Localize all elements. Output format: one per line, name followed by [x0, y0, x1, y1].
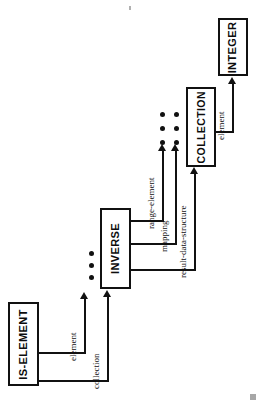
edge-range-element-segment-v — [162, 150, 164, 222]
edge-collection-arrowhead — [103, 290, 111, 297]
node-integer[interactable]: INTEGER — [218, 18, 248, 76]
ellipsis-dot — [160, 112, 165, 117]
node-collection[interactable]: COLLECTION — [186, 87, 216, 167]
edge-range-element-arrowhead — [158, 144, 166, 151]
node-is-element[interactable]: IS-ELEMENT — [8, 302, 39, 386]
edge-label-range-element: range-element — [147, 178, 156, 229]
edge-label-element-1: element — [69, 333, 78, 362]
node-is-element-label: IS-ELEMENT — [18, 309, 29, 380]
ellipsis-dot — [89, 263, 94, 268]
edge-collection-segment-v — [107, 296, 109, 382]
edge-element-1-segment-v — [84, 298, 86, 354]
edge-label-collection: collection — [92, 354, 101, 390]
edge-mapping-segment-v — [175, 150, 177, 245]
node-collection-label: COLLECTION — [196, 91, 207, 163]
edge-label-element-2: element — [217, 112, 226, 141]
edge-label-mapping: mapping — [160, 221, 169, 253]
ellipsis-dot — [89, 275, 94, 280]
edge-element-2-segment-v — [232, 84, 234, 133]
diagram-canvas: IS-ELEMENT INVERSE COLLECTION INTEGER el… — [0, 0, 258, 402]
edge-label-result-data-structure: result-data-structure — [179, 206, 188, 278]
edge-element-2-arrowhead — [228, 77, 236, 84]
edge-mapping-arrowhead — [171, 144, 179, 151]
ellipsis-dot — [89, 251, 94, 256]
node-inverse-label: INVERSE — [110, 223, 121, 274]
edge-result-data-structure-arrowhead — [190, 167, 198, 174]
scan-speck-top — [129, 6, 131, 10]
node-integer-label: INTEGER — [228, 21, 239, 73]
edge-result-data-structure-segment-v — [194, 174, 196, 271]
edge-element-1-segment-h — [39, 352, 85, 354]
ellipsis-dot — [160, 140, 165, 145]
edge-element-1-arrowhead — [80, 292, 88, 299]
ellipsis-dot — [174, 112, 179, 117]
scan-speck-corner — [250, 394, 256, 400]
edge-mapping-segment-h — [131, 243, 177, 245]
ellipsis-dot — [160, 126, 165, 131]
ellipsis-dot — [174, 126, 179, 131]
node-inverse[interactable]: INVERSE — [100, 208, 131, 289]
ellipsis-dot — [174, 140, 179, 145]
